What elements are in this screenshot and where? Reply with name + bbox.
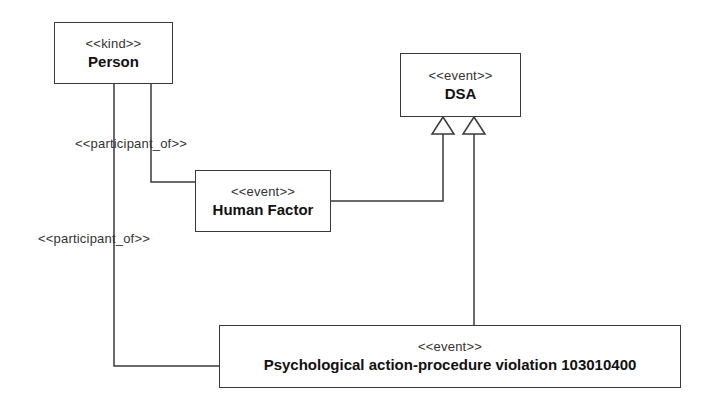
association-label-participant-of: <<participant_of>>: [38, 231, 150, 247]
stereotype-label: <<kind>>: [86, 35, 142, 52]
class-human-factor[interactable]: <<event>> Human Factor: [195, 170, 331, 232]
association-line-person-human-factor[interactable]: [151, 84, 196, 182]
class-name: Psychological action-procedure violation…: [264, 355, 637, 375]
class-psych-violation[interactable]: <<event>> Psychological action-procedure…: [219, 325, 681, 388]
class-name: DSA: [445, 84, 477, 104]
class-name: Human Factor: [213, 200, 314, 220]
stereotype-label: <<event>>: [231, 183, 295, 200]
generalization-arrowhead-icon: [463, 117, 485, 134]
class-dsa[interactable]: <<event>> DSA: [400, 53, 521, 117]
class-name: Person: [88, 52, 139, 72]
generalization-arrowhead-icon: [432, 117, 454, 134]
diagram-canvas: <<kind>> Person <<event>> DSA <<event>> …: [0, 0, 717, 411]
stereotype-label: <<event>>: [429, 67, 493, 84]
generalization-line-human-factor-dsa[interactable]: [331, 134, 443, 201]
association-label-participant-of: <<participant_of>>: [75, 136, 187, 152]
class-person[interactable]: <<kind>> Person: [54, 22, 173, 84]
stereotype-label: <<event>>: [418, 338, 482, 355]
